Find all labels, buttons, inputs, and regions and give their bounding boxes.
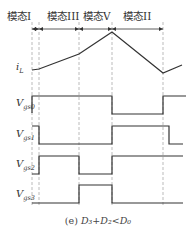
figure-caption: (e) D₃+D₂<D₀: [0, 215, 196, 226]
mode-label-1: 模态I: [7, 8, 31, 23]
signal-label-vgs0: Vgs0: [16, 97, 35, 111]
signal-label-vgs3: Vgs3: [16, 188, 35, 202]
waveform-vgs0: [32, 96, 186, 114]
signal-label-il: iL: [16, 61, 24, 75]
waveform-vgs1: [32, 126, 183, 144]
mode-label-2: 模态III: [47, 8, 79, 23]
mode-label-4: 模态II: [123, 8, 151, 23]
mode-span-arrows: [32, 27, 163, 31]
signal-label-vgs1: Vgs1: [16, 128, 35, 142]
waveform-il: [32, 32, 182, 73]
signal-label-vgs2: Vgs2: [16, 158, 35, 172]
waveform-vgs2: [32, 156, 183, 174]
waveform-vgs3: [32, 185, 183, 203]
mode-label-3: 模态V: [83, 8, 111, 23]
